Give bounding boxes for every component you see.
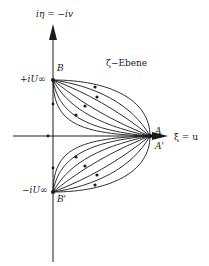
point-b-prime-label: B' xyxy=(57,195,66,204)
point-b-value-label: +iU∞ xyxy=(20,75,46,84)
lower-streamlines xyxy=(53,136,150,192)
point-a-prime-label: A' xyxy=(155,142,164,151)
point-b-prime-value-label: −iU∞ xyxy=(22,186,48,195)
plane-label: ζ−Ebene xyxy=(106,59,147,68)
point-a-label: A xyxy=(155,127,162,136)
point-b xyxy=(51,78,55,82)
horizontal-axis-label: ξ = u xyxy=(174,133,198,142)
upper-streamlines xyxy=(53,80,150,136)
vertical-axis-label: iη = −iv xyxy=(36,10,73,19)
point-b-label: B xyxy=(57,64,64,73)
point-b-prime xyxy=(51,190,55,194)
vertical-axis xyxy=(49,24,57,262)
point-a xyxy=(148,134,152,138)
up-arrow-icon xyxy=(49,24,57,40)
